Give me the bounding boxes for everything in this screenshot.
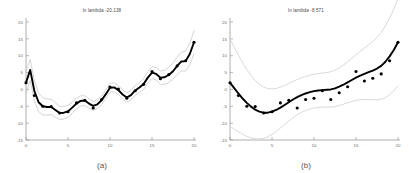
data-point: [270, 110, 273, 113]
data-point: [354, 70, 357, 73]
data-point: [66, 110, 69, 113]
axes: [230, 18, 400, 140]
data-point: [237, 94, 240, 97]
data-point: [192, 41, 195, 44]
data-point: [92, 106, 95, 109]
fit-curve: [26, 42, 194, 113]
data-point: [279, 101, 282, 104]
y-tick-label: 10: [18, 53, 23, 58]
data-point: [312, 97, 315, 100]
panel-a-caption: (a): [0, 161, 204, 170]
data-point: [184, 59, 187, 62]
y-tick-label: -5: [19, 104, 23, 109]
tick-marks: -15-10-50510152005101520: [17, 20, 197, 148]
data-point: [388, 59, 391, 62]
y-tick-label: -5: [223, 104, 227, 109]
data-point: [58, 111, 61, 114]
x-tick-label: 15: [354, 143, 359, 148]
data-point: [167, 73, 170, 76]
x-tick-label: 10: [108, 143, 113, 148]
data-point: [75, 101, 78, 104]
upper-confidence-band: [230, 0, 398, 89]
data-point: [159, 77, 162, 80]
data-point: [24, 81, 27, 84]
tick-marks: -15-10-50510152005101520: [221, 20, 401, 148]
x-tick-label: 0: [25, 143, 28, 148]
y-tick-label: 20: [222, 20, 227, 25]
data-point: [108, 86, 111, 89]
lower-confidence-band: [230, 86, 398, 139]
data-point: [321, 89, 324, 92]
y-tick-label: -15: [17, 138, 24, 143]
data-point: [142, 83, 145, 86]
data-point: [304, 98, 307, 101]
y-tick-label: -10: [221, 121, 228, 126]
x-tick-label: 20: [192, 143, 197, 148]
data-point: [329, 98, 332, 101]
x-tick-label: 15: [150, 143, 155, 148]
y-tick-label: 15: [18, 37, 23, 42]
y-tick-label: 20: [18, 20, 23, 25]
data-points: [228, 41, 399, 115]
data-point: [363, 79, 366, 82]
data-point: [338, 91, 341, 94]
data-point: [380, 72, 383, 75]
data-point: [41, 105, 44, 108]
x-tick-label: 20: [396, 143, 401, 148]
y-tick-label: -15: [221, 138, 228, 143]
data-point: [50, 105, 53, 108]
data-point: [125, 97, 128, 100]
data-point: [371, 77, 374, 80]
x-tick-label: 10: [312, 143, 317, 148]
axes: [26, 18, 196, 140]
data-points: [24, 41, 195, 115]
panel-b-plot: -15-10-50510152005101520: [204, 0, 408, 173]
y-tick-label: 10: [222, 53, 227, 58]
figure-two-panel-smoothing-splines: ln lambda -20.138 -15-10-505101520051015…: [0, 0, 409, 173]
data-point: [262, 111, 265, 114]
panel-a: ln lambda -20.138 -15-10-505101520051015…: [0, 0, 204, 173]
x-tick-label: 0: [229, 143, 232, 148]
upper-confidence-band: [26, 31, 194, 107]
y-tick-label: 5: [21, 70, 24, 75]
data-point: [176, 64, 179, 67]
confidence-bands: [230, 0, 398, 139]
data-point: [245, 105, 248, 108]
data-point: [346, 85, 349, 88]
data-point: [134, 89, 137, 92]
x-tick-label: 5: [271, 143, 274, 148]
data-point: [228, 81, 231, 84]
x-tick-label: 5: [67, 143, 70, 148]
data-point: [396, 41, 399, 44]
panel-b: ln lambda -8.571 -15-10-5051015200510152…: [204, 0, 408, 173]
data-point: [117, 88, 120, 91]
y-tick-label: -10: [17, 121, 24, 126]
panel-b-caption: (b): [204, 161, 408, 170]
y-tick-label: 5: [225, 70, 228, 75]
y-tick-label: 0: [21, 87, 24, 92]
data-point: [296, 106, 299, 109]
y-tick-label: 0: [225, 87, 228, 92]
data-point: [287, 99, 290, 102]
data-point: [83, 99, 86, 102]
data-point: [150, 70, 153, 73]
y-tick-label: 15: [222, 37, 227, 42]
panel-a-plot: -15-10-50510152005101520: [0, 0, 204, 173]
data-point: [100, 98, 103, 101]
data-point: [33, 94, 36, 97]
data-point: [254, 105, 257, 108]
